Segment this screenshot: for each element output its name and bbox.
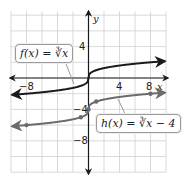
tick-x-8: 8	[146, 81, 152, 92]
axis-label-x: x	[157, 81, 163, 92]
tick-y-neg8: −8	[73, 135, 88, 146]
h-point	[148, 92, 152, 96]
axis-label-y: y	[92, 13, 99, 24]
f-function-label: f(x) = ∛x	[15, 44, 73, 63]
graph: y x −8 4 8 4 −4 −8	[0, 0, 190, 182]
h-function-label: h(x) = ∛x − 4	[96, 114, 181, 133]
tick-x-4: 4	[116, 81, 122, 92]
tick-x-neg8: −8	[19, 81, 34, 92]
tick-y-4: 4	[79, 41, 85, 52]
h-point	[94, 99, 98, 103]
h-point	[24, 123, 28, 127]
tick-y-neg4: −4	[73, 104, 88, 115]
h-point	[79, 115, 83, 119]
